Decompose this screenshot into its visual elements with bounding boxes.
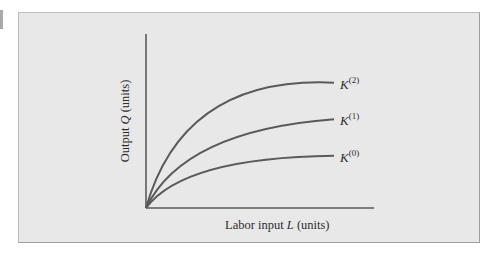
curve-k2: [146, 82, 334, 208]
label-k1: K(1): [340, 111, 359, 129]
curve-k0: [146, 156, 334, 208]
label-k0: K(0): [340, 148, 359, 166]
x-axis-label: Labor input L (units): [225, 218, 330, 233]
label-k2: K(2): [340, 75, 359, 93]
y-axis-label: Output Q (units): [118, 80, 133, 163]
